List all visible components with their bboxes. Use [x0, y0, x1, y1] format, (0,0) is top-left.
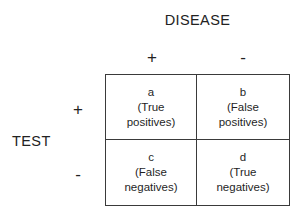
cell-description-line-2: positives) — [127, 115, 176, 130]
cell-description-line-2: positives) — [219, 115, 268, 130]
cell-description-line-1: (True — [229, 165, 256, 180]
confusion-matrix-diagram: DISEASE + - TEST + - a (True positives) … — [0, 0, 300, 220]
cell-description-line-1: (False — [135, 165, 167, 180]
cell-key: d — [240, 150, 246, 165]
cell-description-line-1: (False — [227, 100, 259, 115]
cell-description-line-2: negatives) — [216, 180, 269, 195]
matrix-cell-true-positives: a (True positives) — [106, 75, 197, 140]
cell-key: c — [148, 150, 154, 165]
cell-key: a — [148, 85, 154, 100]
column-group-label-disease: DISEASE — [105, 12, 290, 28]
row-header-positive: + — [60, 100, 96, 120]
matrix-cell-false-negatives: c (False negatives) — [106, 140, 197, 205]
cell-description-line-1: (True — [137, 100, 164, 115]
matrix-cell-false-positives: b (False positives) — [197, 75, 289, 140]
matrix-grid: a (True positives) b (False positives) c… — [105, 74, 290, 206]
column-header-negative: - — [223, 48, 263, 68]
column-header-positive: + — [132, 48, 172, 68]
matrix-cell-true-negatives: d (True negatives) — [197, 140, 289, 205]
cell-key: b — [240, 85, 246, 100]
cell-description-line-2: negatives) — [124, 180, 177, 195]
row-group-label-test: TEST — [12, 133, 64, 149]
row-header-negative: - — [60, 165, 96, 185]
